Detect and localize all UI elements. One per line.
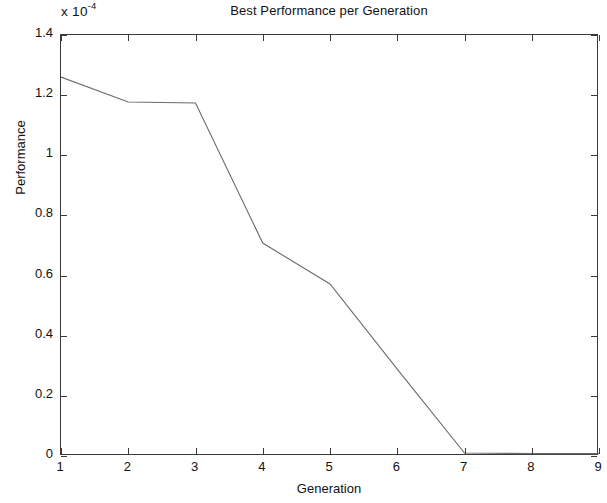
y-axis-tick-label: 1.2 (3, 85, 53, 100)
x-axis-tick (330, 35, 331, 41)
x-axis-tick (128, 448, 129, 454)
y-axis-tick (61, 35, 67, 36)
x-axis-tick-label: 3 (175, 459, 215, 474)
y-axis-tick (591, 396, 597, 397)
x-axis-tick (263, 35, 264, 41)
y-axis-tick (61, 276, 67, 277)
y-axis-tick (591, 456, 597, 457)
y-axis-tick (591, 336, 597, 337)
y-axis-tick-label: 1 (3, 145, 53, 160)
y-axis-tick (591, 215, 597, 216)
y-axis-tick (61, 456, 67, 457)
x-axis-tick (465, 448, 466, 454)
x-axis-tick-label: 4 (242, 459, 282, 474)
data-line-svg (61, 35, 599, 456)
y-axis-tick (61, 155, 67, 156)
y-axis-tick (591, 276, 597, 277)
y-axis-tick (591, 155, 597, 156)
x-axis-tick-label: 2 (107, 459, 147, 474)
x-axis-tick (61, 448, 62, 454)
figure-canvas: x 10-4 Best Performance per Generation 1… (0, 0, 607, 503)
x-axis-tick (397, 448, 398, 454)
y-axis-tick-label: 0.8 (3, 205, 53, 220)
y-axis-tick (61, 95, 67, 96)
y-axis-tick (61, 396, 67, 397)
x-axis-tick-label: 6 (376, 459, 416, 474)
series-line-best-performance (61, 77, 599, 453)
chart-title: Best Performance per Generation (60, 3, 598, 18)
x-axis-tick (397, 35, 398, 41)
x-axis-tick (330, 448, 331, 454)
plot-area (60, 34, 598, 455)
x-axis-tick-label: 7 (444, 459, 484, 474)
x-axis-tick-label: 8 (511, 459, 551, 474)
y-axis-tick-label: 0.2 (3, 386, 53, 401)
x-axis-tick (532, 35, 533, 41)
x-axis-label: Generation (60, 481, 598, 496)
x-axis-tick-label: 1 (40, 459, 80, 474)
y-axis-tick-label: 0.6 (3, 266, 53, 281)
y-axis-label: Performance (13, 98, 28, 218)
x-axis-tick (599, 448, 600, 454)
x-axis-tick-label: 5 (309, 459, 349, 474)
y-axis-tick (61, 336, 67, 337)
x-axis-tick (599, 35, 600, 41)
y-axis-tick-label: 0.4 (3, 326, 53, 341)
y-axis-tick (591, 35, 597, 36)
y-axis-tick-label: 0 (3, 446, 53, 461)
y-axis-tick (591, 95, 597, 96)
x-axis-tick (532, 448, 533, 454)
x-axis-tick (196, 448, 197, 454)
x-axis-tick (263, 448, 264, 454)
x-axis-tick (196, 35, 197, 41)
x-axis-tick (465, 35, 466, 41)
y-axis-tick-label: 1.4 (3, 25, 53, 40)
x-axis-tick-label: 9 (578, 459, 607, 474)
y-axis-tick (61, 215, 67, 216)
x-axis-tick (128, 35, 129, 41)
